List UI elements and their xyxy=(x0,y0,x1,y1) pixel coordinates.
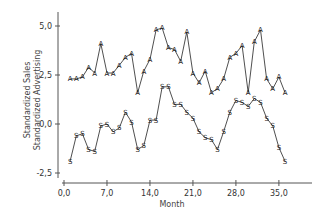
x-tick-label: 14,0 xyxy=(141,189,159,198)
data-point-marker: S xyxy=(197,128,202,136)
data-point-marker: S xyxy=(178,101,183,109)
data-point-marker: A xyxy=(264,75,269,83)
data-point-marker: A xyxy=(160,24,165,32)
data-point-marker: S xyxy=(148,117,153,125)
data-point-marker: A xyxy=(209,89,214,97)
data-point-marker: A xyxy=(197,79,202,87)
line-chart: 5,02,50,0-2,5 0,07,014,021,028,035,0 AAA… xyxy=(0,0,330,212)
data-point-marker: S xyxy=(111,128,116,136)
data-point-marker: A xyxy=(148,56,153,64)
data-point-marker: A xyxy=(240,42,245,50)
data-point-marker: S xyxy=(129,119,134,127)
data-point-marker: S xyxy=(86,146,91,154)
plot-area: AAAAAAAAAAAAAAAAAAAAAAAAAAAAAAAAAAAASSSS… xyxy=(68,24,288,165)
y-tick-label: 5,0 xyxy=(39,22,52,31)
data-point-marker: S xyxy=(105,121,110,129)
data-point-marker: S xyxy=(228,109,233,117)
data-point-marker: A xyxy=(221,75,226,83)
data-point-marker: S xyxy=(246,103,251,111)
x-tick-label: 7,0 xyxy=(101,189,114,198)
data-point-marker: A xyxy=(68,75,73,83)
data-point-marker: S xyxy=(135,146,140,154)
data-point-marker: A xyxy=(111,70,116,78)
data-point-marker: A xyxy=(123,54,128,62)
y-axis-title-advertising: Standardized Advertising xyxy=(33,50,42,151)
data-point-marker: A xyxy=(166,44,171,52)
data-point-marker: S xyxy=(283,158,288,166)
data-point-marker: A xyxy=(80,73,85,81)
data-point-marker: S xyxy=(209,136,214,144)
data-point-marker: S xyxy=(92,148,97,156)
data-point-marker: A xyxy=(141,68,146,76)
data-point-marker: S xyxy=(117,124,122,132)
data-point-marker: S xyxy=(142,142,147,150)
data-point-marker: S xyxy=(271,122,276,130)
data-point-marker: A xyxy=(258,26,263,34)
data-point-marker: S xyxy=(166,83,171,91)
data-point-marker: A xyxy=(203,68,208,76)
data-point-marker: S xyxy=(240,99,245,107)
data-point-marker: A xyxy=(227,54,232,62)
data-point-marker: A xyxy=(246,89,251,97)
data-point-marker: A xyxy=(277,73,282,81)
x-tick-label: 21,0 xyxy=(184,189,202,198)
data-point-marker: A xyxy=(172,46,177,54)
data-point-marker: A xyxy=(92,70,97,78)
data-point-marker: S xyxy=(74,132,79,140)
data-point-marker: A xyxy=(234,50,239,58)
data-point-marker: A xyxy=(129,50,134,58)
x-axis: 0,07,014,021,028,035,0 xyxy=(58,180,312,198)
data-point-marker: S xyxy=(191,115,196,123)
data-point-marker: A xyxy=(86,64,91,72)
data-point-marker: A xyxy=(283,89,288,97)
data-point-marker: S xyxy=(277,144,282,152)
data-point-marker: S xyxy=(68,158,73,166)
x-tick-label: 35,0 xyxy=(270,189,288,198)
advertising-series: AAAAAAAAAAAAAAAAAAAAAAAAAAAAAAAAAAAA xyxy=(68,24,288,97)
y-tick-label: -2,5 xyxy=(36,169,52,178)
data-point-marker: S xyxy=(154,117,159,125)
data-point-marker: A xyxy=(74,75,79,83)
y-axis-title-sales: Standardized Sales xyxy=(23,62,32,139)
data-point-marker: S xyxy=(221,128,226,136)
data-point-marker: S xyxy=(203,134,208,142)
data-point-marker: A xyxy=(252,38,257,46)
x-axis-title: Month xyxy=(159,200,184,209)
data-point-marker: A xyxy=(184,28,189,36)
data-point-marker: S xyxy=(160,83,165,91)
sales-series: SSSSSSSSSSSSSSSSSSSSSSSSSSSSSSSSSSSS xyxy=(68,83,288,165)
data-point-marker: A xyxy=(154,26,159,34)
data-point-marker: S xyxy=(123,109,128,117)
x-tick-label: 0,0 xyxy=(58,189,71,198)
data-point-marker: A xyxy=(178,58,183,66)
data-point-marker: S xyxy=(215,146,220,154)
data-point-marker: A xyxy=(135,89,140,97)
data-point-marker: A xyxy=(215,85,220,93)
data-point-marker: S xyxy=(172,101,177,109)
data-point-marker: S xyxy=(258,99,263,107)
data-point-marker: A xyxy=(117,62,122,70)
data-point-marker: S xyxy=(99,122,104,130)
data-point-marker: S xyxy=(264,115,269,123)
data-point-marker: S xyxy=(80,130,85,138)
data-point-marker: A xyxy=(105,70,110,78)
data-point-marker: S xyxy=(185,109,190,117)
data-point-marker: S xyxy=(234,97,239,105)
data-point-marker: S xyxy=(252,95,257,103)
data-point-marker: A xyxy=(270,85,275,93)
data-point-marker: A xyxy=(191,70,196,78)
data-point-marker: A xyxy=(98,40,103,48)
x-tick-label: 28,0 xyxy=(227,189,245,198)
